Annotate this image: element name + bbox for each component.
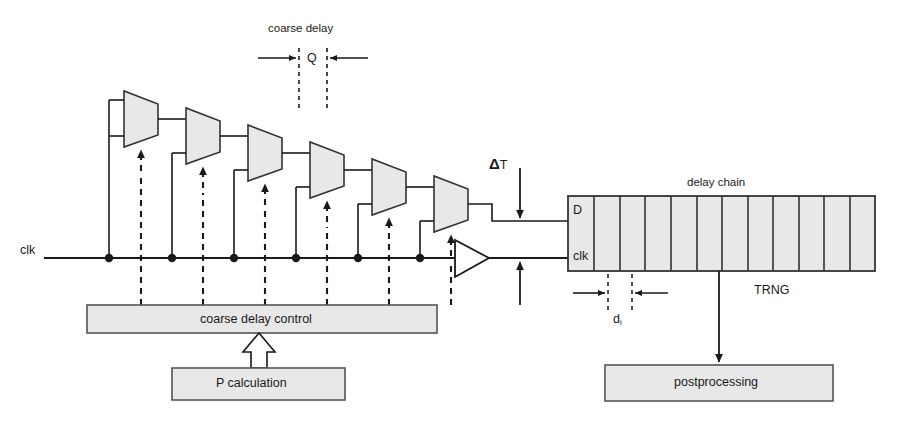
mux-4 xyxy=(296,142,372,305)
mux-5 xyxy=(358,159,434,305)
trng-label: TRNG xyxy=(754,283,789,297)
delta-t-subject: T xyxy=(500,158,508,172)
d-i-label: di xyxy=(613,312,622,327)
clk-input-label: clk xyxy=(20,243,35,257)
block-arrow-up xyxy=(243,333,275,368)
delta-t-label: ΔT xyxy=(489,155,507,173)
diagram-canvas: coarse delay Q ΔT clk delay chain D clk … xyxy=(0,0,908,432)
mux-6 xyxy=(420,176,468,305)
delay-chain-label: delay chain xyxy=(687,176,745,188)
coarse-delay-control-label: coarse delay control xyxy=(200,312,312,326)
delta-symbol: Δ xyxy=(489,155,500,172)
mux-chain xyxy=(109,91,468,305)
diagram-svg xyxy=(0,0,908,432)
pin-d-label: D xyxy=(573,203,582,217)
d-i-base: d xyxy=(613,312,620,326)
postprocessing-label: postprocessing xyxy=(674,375,758,389)
mux-2 xyxy=(172,108,248,305)
buffer-amplifier xyxy=(455,240,568,277)
d-i-subscript: i xyxy=(620,318,622,327)
mux-1 xyxy=(109,91,186,305)
pin-clk-label: clk xyxy=(573,249,588,263)
p-calculation-label: P calculation xyxy=(216,376,287,390)
clk-bus xyxy=(44,254,480,262)
d-i-marker xyxy=(573,274,668,312)
coarse-delay-label: coarse delay xyxy=(268,22,333,34)
delay-chain-block xyxy=(568,196,875,271)
mux-output-to-d xyxy=(468,204,568,221)
q-label: Q xyxy=(307,51,317,65)
mux-3 xyxy=(234,125,310,305)
